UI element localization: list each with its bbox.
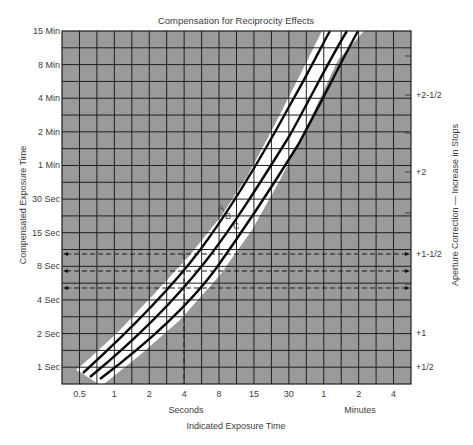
y-tick-label: 30 Sec bbox=[32, 194, 61, 204]
x-tick-label: 8 bbox=[217, 389, 222, 399]
y-tick-label: 4 Min bbox=[38, 93, 60, 103]
y-tick-label: 1 Min bbox=[38, 160, 60, 170]
grid-lines bbox=[62, 31, 411, 384]
y2-axis-title: Aperture Correction — Increase in Stops bbox=[450, 123, 460, 286]
y2-tick-label: +1-1/2 bbox=[416, 249, 442, 259]
y2-tick-label: +1/2 bbox=[416, 362, 434, 372]
y-axis-title: Compensated Exposure Time bbox=[18, 146, 28, 265]
x-tick-label: 4 bbox=[391, 389, 396, 399]
x-tick-label: 4 bbox=[182, 389, 187, 399]
x-axis-title: Indicated Exposure Time bbox=[186, 421, 285, 431]
x-unit-minutes: Minutes bbox=[344, 405, 376, 415]
chart-title: Compensation for Reciprocity Effects bbox=[158, 15, 314, 26]
y2-tick-label: +2-1/2 bbox=[416, 90, 442, 100]
curve-b-label: B bbox=[225, 211, 231, 221]
y-tick-label: 4 Sec bbox=[37, 295, 61, 305]
x-tick-label: 2 bbox=[356, 389, 361, 399]
y-tick-label: 15 Sec bbox=[32, 228, 61, 238]
curve-c-label: C bbox=[233, 221, 240, 231]
x-tick-label: 1 bbox=[112, 389, 117, 399]
y2-tick-label: +2 bbox=[416, 167, 426, 177]
x-tick-label: 30 bbox=[284, 389, 294, 399]
y-tick-label: 15 Min bbox=[33, 26, 60, 36]
reciprocity-chart: A B C Compensation for Reciprocity Effec… bbox=[0, 0, 473, 445]
x-tick-label: 2 bbox=[147, 389, 152, 399]
y2-tick-label: +1 bbox=[416, 328, 426, 338]
y-tick-label: 8 Min bbox=[38, 60, 60, 70]
y-tick-label: 2 Sec bbox=[37, 329, 61, 339]
y2-tick-labels: +2-1/2+2+1-1/2+1+1/2 bbox=[416, 90, 442, 372]
y-tick-label: 2 Min bbox=[38, 127, 60, 137]
x-tick-label: 1 bbox=[321, 389, 326, 399]
x-tick-label: 0.5 bbox=[73, 389, 86, 399]
y-tick-labels: 15 Min8 Min4 Min2 Min1 Min30 Sec15 Sec8 … bbox=[32, 26, 61, 372]
curve-a-label: A bbox=[218, 203, 224, 213]
x-unit-seconds: Seconds bbox=[168, 405, 204, 415]
x-tick-label: 15 bbox=[249, 389, 259, 399]
y-tick-label: 8 Sec bbox=[37, 261, 61, 271]
x-tick-labels: 0.512481530124 bbox=[73, 389, 396, 399]
y-tick-label: 1 Sec bbox=[37, 362, 61, 372]
